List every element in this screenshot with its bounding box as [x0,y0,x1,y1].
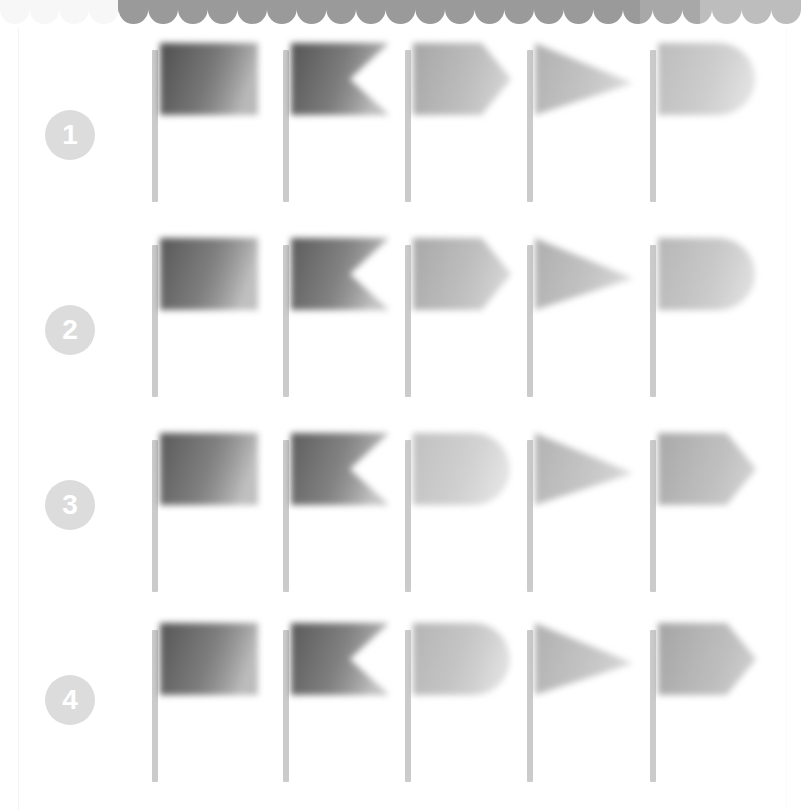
flag-banner-pointed [655,620,753,692]
flag-pointed-r4c5 [650,620,775,790]
flag-shape-triangle [535,433,633,505]
flag-shape-pointed [658,433,756,505]
flag-banner-rounded [410,430,508,502]
flag-shape-rounded [658,238,755,310]
strip-segment-2 [118,0,640,24]
flag-triangle-r1c4 [527,40,652,210]
flag-shape-rectangle [160,433,258,505]
flag-banner-rectangle [157,430,255,502]
flag-banner-swallowtail [288,40,386,112]
flag-pointed-r2c3 [405,235,530,405]
row-badge-4: 4 [45,675,95,725]
flag-row-1: 1 [0,40,801,210]
flag-banner-triangle [532,430,630,502]
flag-row-3: 3 [0,430,801,600]
flag-banner-rectangle [157,620,255,692]
flag-shape-swallowtail [291,238,389,310]
flag-banner-triangle [532,620,630,692]
flag-rectangle-r2c1 [152,235,277,405]
flag-triangle-r3c4 [527,430,652,600]
flag-rounded-r3c3 [405,430,530,600]
row-badge-3: 3 [45,480,95,530]
strip-segment-3 [640,0,700,24]
flag-swallowtail-r1c2 [283,40,408,210]
flag-shape-pointed [413,43,511,115]
flag-pointed-r1c3 [405,40,530,210]
flag-shape-rounded [413,433,510,505]
flag-banner-pointed [410,40,508,112]
flag-banner-triangle [532,235,630,307]
flag-banner-rounded [410,620,508,692]
flag-rounded-r1c5 [650,40,775,210]
flag-swallowtail-r2c2 [283,235,408,405]
flag-triangle-r4c4 [527,620,652,790]
flag-pointed-r3c5 [650,430,775,600]
flag-banner-pointed [410,235,508,307]
flag-shape-triangle [535,43,633,115]
flag-rounded-r2c5 [650,235,775,405]
flag-shape-rectangle [160,238,258,310]
flag-banner-triangle [532,40,630,112]
flag-rounded-r4c3 [405,620,530,790]
flag-rectangle-r4c1 [152,620,277,790]
flag-shape-swallowtail [291,433,389,505]
flag-swallowtail-r4c2 [283,620,408,790]
scalloped-top-strip [0,0,801,24]
flag-shape-pointed [658,623,756,695]
row-badge-1: 1 [45,110,95,160]
flag-banner-rounded [655,40,753,112]
flag-rectangle-r1c1 [152,40,277,210]
flag-banner-pointed [655,430,753,502]
flag-shape-rectangle [160,43,258,115]
flag-shape-triangle [535,238,633,310]
flag-shape-pointed [413,238,511,310]
flag-row-4: 4 [0,620,801,790]
flag-banner-swallowtail [288,235,386,307]
flag-triangle-r2c4 [527,235,652,405]
row-badge-2: 2 [45,305,95,355]
worksheet-page: 1234 [0,0,801,810]
flag-shape-swallowtail [291,43,389,115]
flag-banner-swallowtail [288,430,386,502]
flag-banner-rectangle [157,235,255,307]
flag-swallowtail-r3c2 [283,430,408,600]
flag-shape-rectangle [160,623,258,695]
strip-segment-1 [0,0,118,24]
flag-shape-triangle [535,623,633,695]
flag-shape-rounded [658,43,755,115]
flag-shape-rounded [413,623,510,695]
flag-row-2: 2 [0,235,801,405]
flag-shape-swallowtail [291,623,389,695]
flag-banner-swallowtail [288,620,386,692]
flag-banner-rounded [655,235,753,307]
flag-banner-rectangle [157,40,255,112]
strip-segment-4 [700,0,801,24]
flag-rectangle-r3c1 [152,430,277,600]
